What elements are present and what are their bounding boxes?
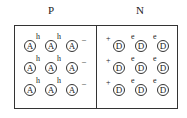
acceptor-ion: A bbox=[45, 84, 57, 96]
donor-ion: D bbox=[157, 62, 169, 74]
donor-ion: D bbox=[157, 84, 169, 96]
hole-label: h bbox=[57, 77, 61, 85]
acceptor-ion: A bbox=[45, 62, 57, 74]
p-label: P bbox=[48, 4, 54, 16]
acceptor-ion: A bbox=[24, 40, 36, 52]
donor-ion: D bbox=[113, 84, 125, 96]
donor-ion: D bbox=[157, 40, 169, 52]
acceptor-ion: A bbox=[66, 62, 78, 74]
hole-label: h bbox=[36, 55, 40, 63]
electron-label: e bbox=[153, 55, 157, 63]
positive-charge: + bbox=[106, 79, 111, 87]
acceptor-ion: A bbox=[24, 62, 36, 74]
negative-charge: – bbox=[82, 80, 86, 88]
donor-ion: D bbox=[135, 62, 147, 74]
electron-label: e bbox=[131, 33, 135, 41]
acceptor-ion: A bbox=[66, 40, 78, 52]
acceptor-ion: A bbox=[45, 40, 57, 52]
acceptor-ion: A bbox=[24, 84, 36, 96]
pn-junction-box: AhAhA–AhAhA–AhAhA– +DDeDe+DDeDe+DDeDe bbox=[14, 25, 178, 109]
electron-label: e bbox=[153, 33, 157, 41]
positive-charge: + bbox=[106, 57, 111, 65]
positive-charge: + bbox=[106, 35, 111, 43]
donor-ion: D bbox=[113, 40, 125, 52]
donor-ion: D bbox=[135, 40, 147, 52]
negative-charge: – bbox=[82, 58, 86, 66]
electron-label: e bbox=[131, 77, 135, 85]
n-label: N bbox=[136, 4, 144, 16]
hole-label: h bbox=[57, 55, 61, 63]
hole-label: h bbox=[36, 77, 40, 85]
hole-label: h bbox=[57, 33, 61, 41]
acceptor-ion: A bbox=[66, 84, 78, 96]
donor-ion: D bbox=[113, 62, 125, 74]
electron-label: e bbox=[153, 77, 157, 85]
donor-ion: D bbox=[135, 84, 147, 96]
junction-divider bbox=[96, 26, 97, 108]
hole-label: h bbox=[36, 33, 40, 41]
electron-label: e bbox=[131, 55, 135, 63]
negative-charge: – bbox=[82, 36, 86, 44]
